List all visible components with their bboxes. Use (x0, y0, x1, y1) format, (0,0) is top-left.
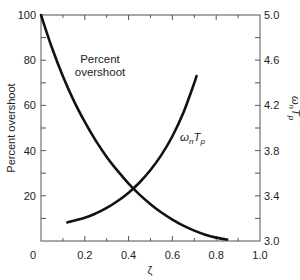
series (41, 15, 227, 240)
chart: 00.20.40.60.81.0204060801003.03.43.84.24… (0, 0, 300, 280)
y2-tick-label: 4.2 (264, 99, 279, 111)
x-tick-label: 0 (30, 249, 36, 261)
y-tick-label: 80 (24, 54, 36, 66)
svg-text:ωnTp: ωnTp (287, 96, 300, 121)
y-tick-label: 40 (24, 145, 36, 157)
x-tick-label: 0.2 (77, 249, 92, 261)
annotation-percent-overshoot: Percent overshoot (75, 53, 126, 78)
y2-tick-label: 3.4 (264, 190, 279, 202)
x-tick-label: 0.8 (209, 249, 224, 261)
y2-tick-label: 5.0 (264, 9, 279, 21)
svg-text:overshoot: overshoot (75, 66, 126, 78)
y2-tick-label: 3.8 (264, 145, 279, 157)
y2-axis-title: ωnTp (287, 96, 300, 121)
x-tick-label: 1.0 (252, 249, 267, 261)
axes (41, 15, 260, 241)
y-tick-label: 20 (24, 190, 36, 202)
x-tick-label: 0.6 (165, 249, 180, 261)
svg-text:Percent: Percent (80, 53, 120, 65)
percent-overshoot-curve (41, 15, 227, 240)
svg-text:ωnTp: ωnTp (180, 131, 205, 146)
y-tick-label: 100 (18, 9, 36, 21)
y2-tick-label: 4.6 (264, 54, 279, 66)
y-axis-title: Percent overshoot (5, 83, 17, 172)
ticks: 00.20.40.60.81.0204060801003.03.43.84.24… (18, 9, 280, 261)
annotation-wntp: ωnTp (180, 131, 205, 146)
y2-tick-label: 3.0 (264, 235, 279, 247)
y-tick-label: 60 (24, 99, 36, 111)
wntp-curve (67, 76, 196, 222)
plot-frame (41, 15, 260, 241)
x-tick-label: 0.4 (121, 249, 136, 261)
x-axis-title: ζ (148, 264, 153, 276)
